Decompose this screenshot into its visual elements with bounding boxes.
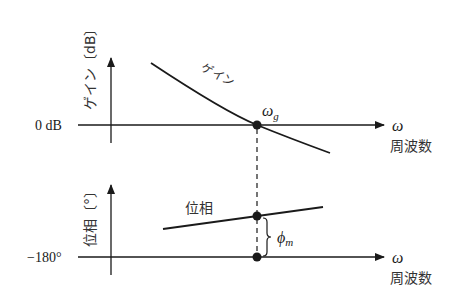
zero-db-label: 0 dB — [35, 118, 62, 133]
phase-x-axis-symbol: ω — [392, 249, 403, 266]
gain-plot: ゲイン〔dB〕 0 dB ゲイン ωg ω 周波数 — [35, 22, 432, 155]
gain-curve — [151, 63, 330, 153]
gain-x-axis-symbol: ω — [392, 117, 403, 134]
phase-margin-brace — [263, 218, 271, 256]
gain-crossover-label: ωg — [262, 102, 279, 122]
gain-y-axis-label: ゲイン〔dB〕 — [82, 22, 98, 111]
bode-diagram: ゲイン〔dB〕 0 dB ゲイン ωg ω 周波数 位相〔°〕 −180° 位相… — [0, 0, 467, 298]
phase-at-crossover-point — [253, 212, 262, 221]
minus-180-label: −180° — [27, 250, 62, 265]
phase-plot: 位相〔°〕 −180° 位相 ϕm ω 周波数 — [27, 184, 432, 286]
phase-x-axis-label: 周波数 — [390, 270, 432, 286]
minus-180-point — [253, 253, 262, 262]
phase-curve-label: 位相 — [185, 200, 213, 216]
gain-curve-label: ゲイン — [199, 60, 237, 89]
gain-crossover-point — [253, 121, 262, 130]
phase-y-axis-label: 位相〔°〕 — [82, 184, 98, 247]
phase-margin-label: ϕm — [277, 229, 293, 248]
gain-x-axis-label: 周波数 — [390, 138, 432, 154]
